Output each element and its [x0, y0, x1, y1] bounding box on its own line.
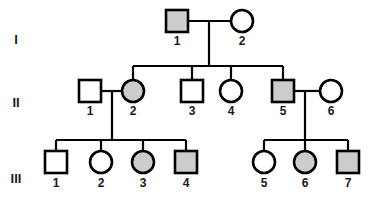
individual-symbol-ii-2[interactable]: [122, 80, 144, 102]
individual-symbol-iii-6[interactable]: [294, 151, 316, 173]
individual-symbol-iii-1[interactable]: [45, 151, 67, 173]
generation-label-3: III: [11, 171, 22, 186]
individual-id-label-iii-3: 3: [140, 176, 147, 190]
individual-symbol-iii-3[interactable]: [132, 151, 154, 173]
individual-symbol-iii-7[interactable]: [337, 151, 359, 173]
individual-id-label-ii-4: 4: [228, 104, 235, 118]
individual-symbol-ii-3[interactable]: [181, 80, 203, 102]
individual-id-label-iii-6: 6: [302, 176, 309, 190]
individual-id-label-iii-4: 4: [183, 176, 190, 190]
individual-id-label-ii-5: 5: [280, 104, 287, 118]
generation-label-1: I: [14, 32, 18, 47]
individual-symbol-iii-2[interactable]: [90, 151, 112, 173]
individual-symbol-i-2[interactable]: [231, 10, 253, 32]
generation-labels-group: IIIIII: [11, 32, 22, 186]
individual-symbol-ii-5[interactable]: [272, 80, 294, 102]
individual-symbol-ii-6[interactable]: [320, 80, 342, 102]
individual-id-label-i-1: 1: [174, 34, 181, 48]
pedigree-chart: 121234561234567 IIIIII: [0, 0, 381, 201]
individual-id-label-iii-5: 5: [261, 176, 268, 190]
individual-symbol-iii-5[interactable]: [253, 151, 275, 173]
individual-id-label-i-2: 2: [239, 34, 246, 48]
individual-symbol-iii-4[interactable]: [175, 151, 197, 173]
individual-id-label-ii-6: 6: [328, 104, 335, 118]
individual-symbol-i-1[interactable]: [166, 10, 188, 32]
individual-id-label-iii-7: 7: [345, 176, 352, 190]
individual-id-label-ii-3: 3: [189, 104, 196, 118]
individual-symbol-ii-1[interactable]: [79, 80, 101, 102]
individual-symbol-ii-4[interactable]: [220, 80, 242, 102]
generation-label-2: II: [12, 95, 19, 110]
pedigree-canvas: 121234561234567 IIIIII: [0, 0, 381, 201]
individual-id-label-iii-2: 2: [98, 176, 105, 190]
individual-id-label-ii-2: 2: [130, 104, 137, 118]
individual-id-label-iii-1: 1: [53, 176, 60, 190]
individual-id-label-ii-1: 1: [87, 104, 94, 118]
